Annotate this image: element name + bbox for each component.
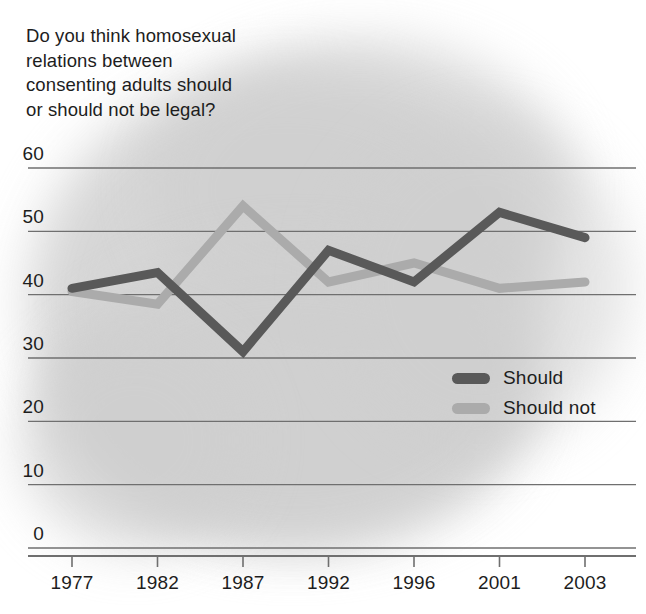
y-axis-tick-label: 30 [0, 333, 44, 355]
data-series-group [72, 206, 585, 352]
y-axis-tick-label: 20 [0, 396, 44, 418]
x-axis-tick-label: 2001 [465, 572, 535, 594]
y-axis-tick-label: 60 [0, 143, 44, 165]
legend-label: Should not [503, 397, 596, 419]
x-axis-tick-label: 1982 [123, 572, 193, 594]
legend-item: Should [452, 363, 596, 393]
legend-swatch [452, 403, 490, 414]
legend-item: Should not [452, 393, 596, 423]
x-axis-tick-label: 2003 [550, 572, 620, 594]
legend-swatch [452, 373, 490, 384]
plot-area [0, 0, 646, 614]
x-axis-tick-label: 1987 [208, 572, 278, 594]
x-axis-tick-label: 1996 [379, 572, 449, 594]
chart-legend: ShouldShould not [452, 363, 596, 423]
chart-container: Do you think homosexual relations betwee… [0, 0, 646, 614]
y-axis-tick-label: 50 [0, 206, 44, 228]
x-axis-tick-label: 1977 [37, 572, 107, 594]
y-axis-tick-label: 0 [0, 523, 44, 545]
y-axis-tick-label: 40 [0, 270, 44, 292]
x-axis-tick-label: 1992 [294, 572, 364, 594]
y-axis-tick-label: 10 [0, 460, 44, 482]
legend-label: Should [503, 367, 563, 389]
x-axis [28, 556, 636, 567]
